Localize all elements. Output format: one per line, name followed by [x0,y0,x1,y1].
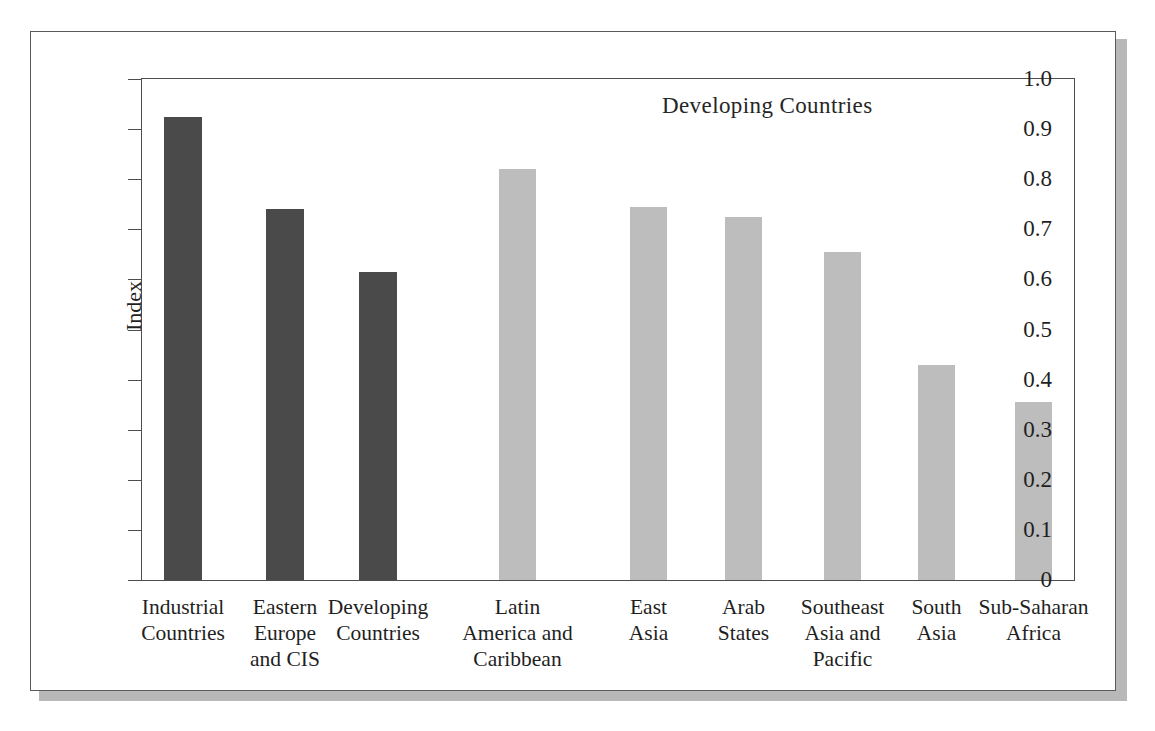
y-axis-tick [128,580,142,581]
y-axis-tick [128,380,142,381]
x-axis-tick-label-line: Countries [303,620,453,646]
y-axis-tick-label: 0.7 [982,216,1052,242]
plot-annotation: Developing Countries [662,93,873,119]
x-axis-tick-label-line: America and [443,620,593,646]
x-axis-tick-label-line: Pacific [768,646,918,672]
bar[interactable] [266,209,304,580]
bar[interactable] [164,117,202,580]
y-axis-tick [128,279,142,280]
y-axis-tick-label: 0.6 [982,266,1052,292]
figure-frame: Developing Countries Index 1.00.90.80.70… [30,31,1116,691]
y-axis-tick-label: 0.1 [982,517,1052,543]
bar[interactable] [359,272,397,580]
y-axis-tick-label: 0.5 [982,317,1052,343]
y-axis-tick [128,179,142,180]
y-axis-tick [128,79,142,80]
y-axis-tick [128,330,142,331]
x-axis-tick-label: DevelopingCountries [303,594,453,646]
y-axis-tick-label: 0.9 [982,116,1052,142]
figure-root: Developing Countries Index 1.00.90.80.70… [0,0,1155,731]
plot-area: Developing Countries Index 1.00.90.80.70… [141,78,1075,581]
y-axis-tick-label: 0.4 [982,367,1052,393]
y-axis-tick-label: 0.8 [982,166,1052,192]
bar[interactable] [918,365,955,580]
y-axis-title: Index [121,236,147,376]
x-axis-tick-label: Sub-SaharanAfrica [959,594,1109,646]
bar[interactable] [630,207,667,580]
y-axis-tick [128,430,142,431]
x-axis-tick-label-line: and CIS [210,646,360,672]
x-axis-tick-label-line: Sub-Saharan [959,594,1109,620]
y-axis-tick-label: 0.2 [982,467,1052,493]
bar[interactable] [824,252,861,580]
y-axis-tick-label: 0.3 [982,417,1052,443]
y-axis-tick-label: 1.0 [982,66,1052,92]
x-axis-tick-label: LatinAmerica andCaribbean [443,594,593,672]
x-axis-tick-label-line: Developing [303,594,453,620]
x-axis-tick-label-line: Caribbean [443,646,593,672]
x-axis-tick-label-line: Latin [443,594,593,620]
x-axis-tick-label-line: Africa [959,620,1109,646]
y-axis-tick [128,229,142,230]
y-axis-tick [128,129,142,130]
bar[interactable] [499,169,536,580]
y-axis-tick-label: 0 [982,567,1052,593]
bar[interactable] [725,217,762,580]
y-axis-tick [128,480,142,481]
plot-inner: Developing Countries [142,79,1074,580]
y-axis-tick [128,530,142,531]
